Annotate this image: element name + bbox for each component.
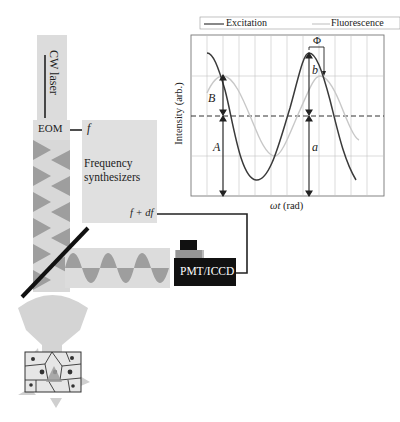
eom-label: EOM bbox=[38, 122, 62, 134]
annotation-A: A bbox=[213, 140, 220, 155]
chart-x-axis-label: ωt (rad) bbox=[270, 200, 303, 211]
objective-lens bbox=[18, 295, 88, 358]
chart-y-axis-label: Intensity (arb.) bbox=[173, 74, 184, 154]
annotation-phase: Φ bbox=[313, 34, 321, 46]
synthesizer-label-line1: Frequency bbox=[84, 157, 133, 169]
intensity-chart bbox=[191, 17, 400, 196]
eom-frequency-label: f bbox=[87, 121, 90, 136]
annotation-a: a bbox=[312, 140, 318, 155]
synthesizer-output-label: f + df bbox=[130, 207, 153, 218]
chart-x-axis-variable: ωt bbox=[270, 200, 280, 211]
legend-fluorescence: Fluorescence bbox=[331, 17, 384, 28]
annotation-B: B bbox=[208, 91, 215, 106]
legend-excitation: Excitation bbox=[226, 17, 267, 28]
annotation-b: b bbox=[312, 63, 318, 78]
detector-label: PMT/ICCD bbox=[180, 265, 234, 277]
detector-pmt-iccd bbox=[174, 240, 236, 286]
chart-x-axis-unit: (rad) bbox=[283, 200, 303, 211]
cw-laser-label: CW laser bbox=[46, 50, 61, 95]
cell-sample bbox=[25, 352, 81, 392]
synthesizer-label-line2: synthesizers bbox=[84, 171, 140, 183]
